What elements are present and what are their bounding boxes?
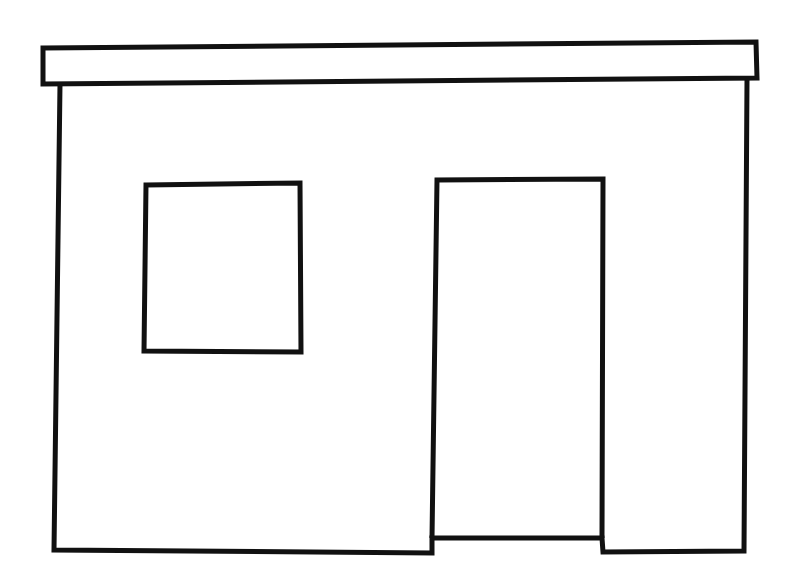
window [144,183,301,352]
roof-slab [43,42,757,84]
house-wall [54,80,747,553]
house-drawing [0,0,794,575]
door [432,179,603,538]
